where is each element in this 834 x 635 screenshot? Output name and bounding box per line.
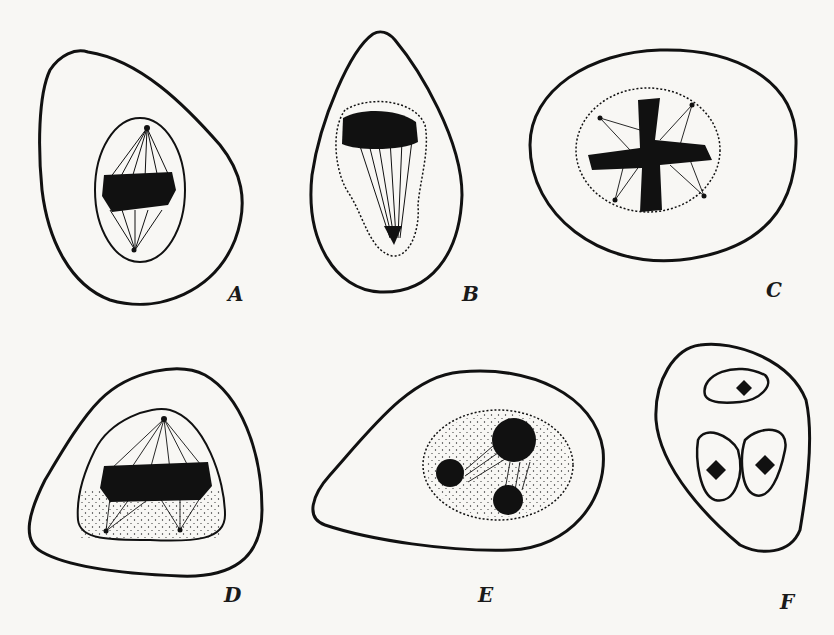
figure-drawing [0,0,834,635]
panel-label-f: F [780,590,794,614]
cell-b [311,32,462,292]
panel-label-e: E [478,583,493,607]
panel-label-b: B [462,282,479,306]
cell-a [40,51,243,304]
cell-e [313,371,604,550]
panel-label-d: D [224,583,241,607]
mitosis-figure: A B C D E F [0,0,834,635]
panel-label-c: C [766,278,782,302]
cell-f [656,344,810,551]
cell-d [29,369,262,576]
panel-label-a: A [228,282,244,306]
cell-c [530,50,796,261]
